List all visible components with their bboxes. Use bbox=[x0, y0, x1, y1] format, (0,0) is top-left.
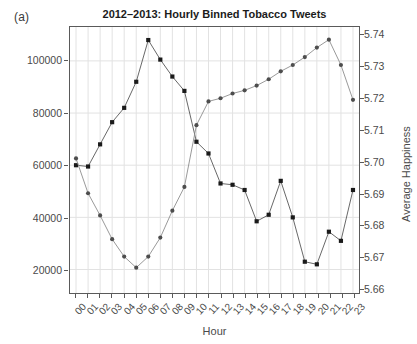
y-tick-label-left: 20000 bbox=[0, 264, 62, 276]
y-tick-mark-right bbox=[360, 257, 364, 258]
x-tick-mark bbox=[305, 294, 306, 298]
x-tick-mark bbox=[221, 294, 222, 298]
y-tick-mark-right bbox=[360, 162, 364, 163]
plot-area bbox=[69, 26, 360, 294]
chart-figure: (a) 2012–2013: Hourly Binned Tobacco Twe… bbox=[0, 0, 417, 344]
y-tick-mark-left bbox=[64, 218, 68, 219]
x-tick-mark bbox=[330, 294, 331, 298]
x-tick-mark bbox=[208, 294, 209, 298]
x-tick-mark bbox=[281, 294, 282, 298]
x-tick-mark bbox=[99, 294, 100, 298]
y-tick-label-left: 80000 bbox=[0, 107, 62, 119]
y-tick-mark-left bbox=[64, 60, 68, 61]
x-axis-label: Hour bbox=[69, 325, 360, 337]
x-tick-mark bbox=[293, 294, 294, 298]
y-tick-mark-right bbox=[360, 130, 364, 131]
y-tick-mark-right bbox=[360, 225, 364, 226]
x-tick-mark bbox=[87, 294, 88, 298]
x-tick-label: 23 bbox=[351, 301, 367, 317]
y-tick-label-left: 100000 bbox=[0, 54, 62, 66]
y-axis-label-right: Average Happiness bbox=[400, 126, 412, 222]
x-tick-mark bbox=[233, 294, 234, 298]
x-tick-mark bbox=[172, 294, 173, 298]
x-tick-mark bbox=[342, 294, 343, 298]
y-tick-label-right: 5.66 bbox=[364, 283, 408, 295]
y-tick-mark-left bbox=[64, 270, 68, 271]
panel-label: (a) bbox=[14, 10, 29, 24]
y-tick-mark-right bbox=[360, 98, 364, 99]
x-tick-mark bbox=[148, 294, 149, 298]
x-tick-mark bbox=[245, 294, 246, 298]
y-tick-label-left: 40000 bbox=[0, 212, 62, 224]
x-tick-mark bbox=[75, 294, 76, 298]
y-tick-mark-left bbox=[64, 113, 68, 114]
y-tick-mark-right bbox=[360, 34, 364, 35]
x-tick-mark bbox=[124, 294, 125, 298]
y-tick-label-right: 5.74 bbox=[364, 28, 408, 40]
y-tick-mark-right bbox=[360, 66, 364, 67]
x-tick-mark bbox=[184, 294, 185, 298]
x-tick-mark bbox=[354, 294, 355, 298]
x-tick-mark bbox=[111, 294, 112, 298]
y-tick-mark-left bbox=[64, 165, 68, 166]
x-tick-mark bbox=[257, 294, 258, 298]
x-tick-mark bbox=[318, 294, 319, 298]
y-tick-label-left: 60000 bbox=[0, 159, 62, 171]
y-tick-label-right: 5.73 bbox=[364, 60, 408, 72]
x-tick-mark bbox=[196, 294, 197, 298]
y-tick-label-right: 5.72 bbox=[364, 92, 408, 104]
x-tick-mark bbox=[136, 294, 137, 298]
y-tick-label-right: 5.67 bbox=[364, 251, 408, 263]
data-series-layer bbox=[70, 27, 359, 293]
chart-title: 2012–2013: Hourly Binned Tobacco Tweets bbox=[69, 8, 360, 20]
y-tick-mark-right bbox=[360, 194, 364, 195]
x-tick-mark bbox=[160, 294, 161, 298]
y-tick-mark-right bbox=[360, 289, 364, 290]
x-tick-mark bbox=[269, 294, 270, 298]
